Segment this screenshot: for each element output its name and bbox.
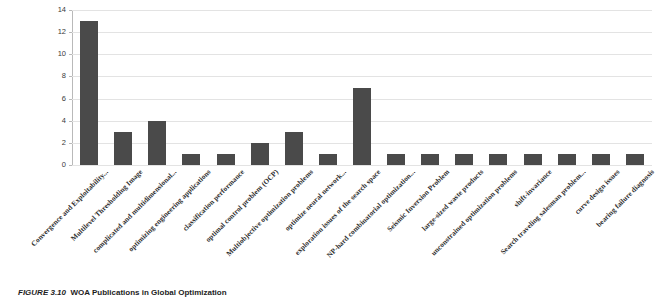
bar-slot	[618, 10, 652, 165]
bar-slot	[140, 10, 174, 165]
bar	[80, 21, 98, 165]
bar-slot	[311, 10, 345, 165]
bar	[455, 154, 473, 165]
bar-slot	[243, 10, 277, 165]
bar-slot	[106, 10, 140, 165]
bar	[558, 154, 576, 165]
bar	[182, 154, 200, 165]
figure-container: 02468101214 Convergence and Exploitabili…	[0, 0, 660, 302]
y-tick-label: 0	[26, 161, 66, 169]
bar-slot	[72, 10, 106, 165]
y-tick-label: 10	[26, 51, 66, 59]
caption-text: WOA Publications in Global Optimization	[70, 288, 226, 297]
bar	[353, 88, 371, 166]
bar	[592, 154, 610, 165]
bar-slot	[481, 10, 515, 165]
x-tick-label: optimal control problem (OCP)	[204, 168, 280, 244]
caption-label: FIGURE 3.10	[18, 288, 66, 297]
y-tick-label: 12	[26, 28, 66, 36]
y-tick-label: 6	[26, 95, 66, 103]
bar-slot	[174, 10, 208, 165]
x-tick-label: bearing failure diagnosis	[595, 168, 656, 229]
bar	[626, 154, 644, 165]
bar-slot	[516, 10, 550, 165]
bar-slot	[413, 10, 447, 165]
x-tick-label: Seismic Inversion Problem	[385, 168, 450, 233]
bar-slot	[379, 10, 413, 165]
y-tick-label: 2	[26, 139, 66, 147]
bar-series	[72, 10, 652, 165]
figure-caption: FIGURE 3.10 WOA Publications in Global O…	[18, 288, 227, 297]
x-tick-label: classification performance	[182, 168, 247, 233]
bar	[421, 154, 439, 165]
bar	[524, 154, 542, 165]
bar	[251, 143, 269, 165]
bar	[285, 132, 303, 165]
y-tick-label: 4	[26, 117, 66, 125]
bar	[217, 154, 235, 165]
y-tick-label: 14	[26, 6, 66, 14]
bar	[114, 132, 132, 165]
bar	[489, 154, 507, 165]
bar-slot	[447, 10, 481, 165]
bar-slot	[345, 10, 379, 165]
x-tick-label: optimize neural network...	[284, 168, 349, 233]
bar-slot	[584, 10, 618, 165]
bar	[387, 154, 405, 165]
x-tick-label: Multilevel Thresholding Image	[69, 168, 144, 243]
y-tick-label: 8	[26, 73, 66, 81]
bar	[319, 154, 337, 165]
bar-slot	[277, 10, 311, 165]
bar-slot	[208, 10, 242, 165]
bar	[148, 121, 166, 165]
x-axis-tick-labels: Convergence and Exploitability...Multile…	[72, 166, 652, 286]
x-tick-label: large-sized waste products	[420, 168, 485, 233]
bar-slot	[550, 10, 584, 165]
